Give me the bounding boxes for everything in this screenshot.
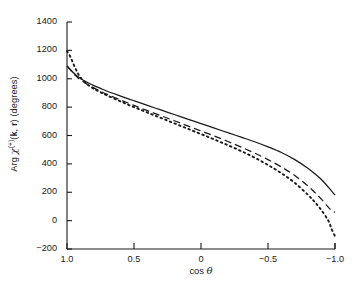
data-series-dotted xyxy=(67,51,335,236)
plot-canvas xyxy=(0,0,362,287)
axis-frame xyxy=(67,22,335,249)
x-axis-ticks xyxy=(67,243,335,249)
data-series-dashed xyxy=(67,66,335,212)
data-series-group xyxy=(67,51,335,236)
scientific-figure: Arg χ(+)(k, r) (degrees) cos θ 140012001… xyxy=(0,0,362,287)
